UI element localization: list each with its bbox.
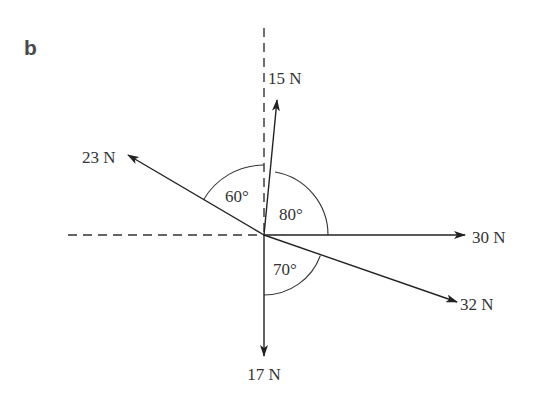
force-label-17n: 17 N bbox=[247, 365, 281, 384]
force-label-30n: 30 N bbox=[472, 228, 506, 247]
force-label-23n: 23 N bbox=[82, 148, 116, 167]
angle-label-80: 80° bbox=[279, 205, 303, 224]
angle-label-60: 60° bbox=[225, 187, 249, 206]
force-arrow-15n bbox=[264, 100, 277, 235]
angle-arc-80 bbox=[275, 172, 328, 235]
force-label-15n: 15 N bbox=[268, 69, 302, 88]
force-diagram: 15 N 23 N 30 N 32 N 17 N 60° 80° 70° bbox=[0, 0, 537, 400]
force-label-32n: 32 N bbox=[460, 295, 494, 314]
angle-label-70: 70° bbox=[273, 260, 297, 279]
